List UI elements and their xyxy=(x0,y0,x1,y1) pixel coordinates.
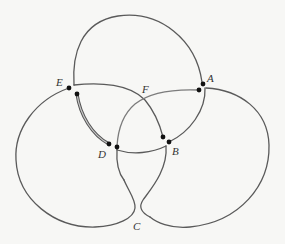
arc-d-to-b-bottom xyxy=(117,146,166,153)
vertex-d-dot-2 xyxy=(115,145,120,150)
label-a: A xyxy=(206,72,214,84)
label-c: C xyxy=(133,220,141,232)
vertex-d-dot-1 xyxy=(107,142,112,147)
label-b: B xyxy=(172,145,179,157)
arc-a-to-b xyxy=(169,88,205,142)
double-edge-e-to-d-inner xyxy=(77,94,109,144)
arc-b-to-c xyxy=(141,146,166,217)
right-loop-curve xyxy=(150,88,269,227)
arc-a-to-d xyxy=(117,90,199,146)
arc-e-to-b xyxy=(74,84,163,137)
vertex-a-dot-1 xyxy=(201,82,206,87)
vertex-a-dot-2 xyxy=(197,88,202,93)
vertex-b-dot-1 xyxy=(161,135,166,140)
double-edge-e-to-d xyxy=(77,94,109,144)
label-d: D xyxy=(97,148,106,160)
vertex-b-dot-2 xyxy=(167,140,172,145)
label-f: F xyxy=(141,83,149,95)
top-loop-curve xyxy=(74,15,202,85)
label-e: E xyxy=(55,76,63,88)
vertex-e-dot-2 xyxy=(75,92,80,97)
knot-diagram: E A F D B C xyxy=(0,0,285,244)
arc-d-to-c xyxy=(117,149,124,180)
vertex-e-dot-1 xyxy=(67,86,72,91)
